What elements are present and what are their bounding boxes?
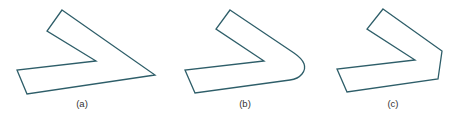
- panel-c-label: (c): [387, 98, 398, 109]
- panel-b-label: (b): [239, 98, 251, 109]
- bevel-join-shape: [337, 9, 442, 92]
- panel-a: (a): [17, 10, 155, 109]
- round-join-shape: [185, 10, 305, 93]
- line-join-figure: (a) (b) (c): [0, 0, 456, 125]
- miter-join-shape: [17, 10, 155, 94]
- panel-c: (c): [337, 9, 442, 109]
- panel-b: (b): [185, 10, 305, 109]
- panel-a-label: (a): [76, 98, 88, 109]
